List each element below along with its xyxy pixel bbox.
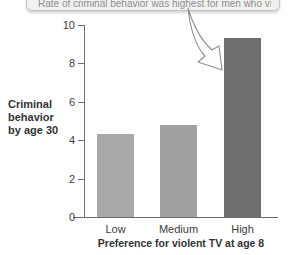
y-tick-label-4: 4 — [44, 134, 75, 146]
y-tick-mark-10 — [78, 25, 84, 26]
y-tick-label-0: 0 — [44, 211, 75, 223]
y-tick-label-2: 2 — [44, 173, 75, 185]
y-tick-mark-6 — [78, 102, 84, 103]
bar-high — [224, 38, 261, 217]
x-category-label-medium: Medium — [149, 223, 209, 235]
x-axis-title: Preference for violent TV at age 8 — [64, 237, 292, 249]
y-axis-line — [84, 25, 85, 218]
x-category-label-high: High — [213, 223, 273, 235]
x-axis-line — [73, 217, 278, 218]
y-tick-label-8: 8 — [44, 57, 75, 69]
bar-medium — [160, 125, 197, 217]
bar-low — [97, 134, 134, 217]
y-tick-label-10: 10 — [44, 19, 75, 31]
y-tick-mark-4 — [78, 140, 84, 141]
y-tick-mark-8 — [78, 63, 84, 64]
y-tick-mark-2 — [78, 179, 84, 180]
callout-box: Rate of criminal behavior was highest fo… — [26, 0, 280, 11]
y-tick-label-6: 6 — [44, 96, 75, 108]
figure-violent-tv-bar-chart: Rate of criminal behavior was highest fo… — [0, 0, 292, 255]
x-category-label-low: Low — [86, 223, 146, 235]
callout-clipped-text: Rate of criminal behavior was highest fo… — [38, 0, 271, 9]
